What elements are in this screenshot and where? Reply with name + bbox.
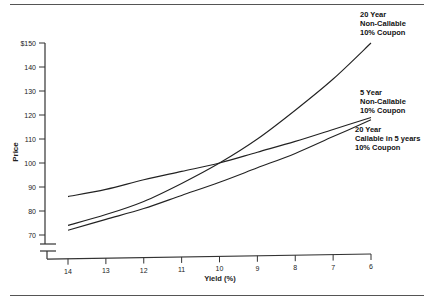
y-tick-label: 140 bbox=[24, 64, 36, 71]
x-tick-label: 14 bbox=[64, 268, 72, 275]
x-tick-label: 8 bbox=[293, 264, 297, 271]
x-tick-label: 9 bbox=[255, 265, 259, 272]
series-lines bbox=[68, 43, 371, 230]
series-label-20yr-callable: 20 Year Callable in 5 years 10% Coupon bbox=[355, 125, 420, 152]
y-tick-label: 130 bbox=[24, 88, 36, 95]
x-tick-label: 6 bbox=[369, 263, 373, 270]
series-label-20yr-noncallable: 20 Year Non-Callable 10% Coupon bbox=[360, 10, 406, 37]
x-axis-title: Yield (%) bbox=[204, 274, 236, 283]
y-tick-label: 70 bbox=[28, 232, 36, 239]
y-tick-label: 110 bbox=[25, 136, 36, 143]
x-tick-label: 12 bbox=[140, 267, 148, 274]
x-axis: 14131211109876 bbox=[47, 254, 373, 275]
x-tick-label: 13 bbox=[102, 267, 110, 274]
series-20yr-noncallable bbox=[68, 43, 371, 225]
y-axis-title: Price bbox=[11, 142, 20, 162]
y-tick-label: $150 bbox=[20, 40, 36, 47]
y-tick-label: 120 bbox=[24, 112, 36, 119]
y-tick-label: 100 bbox=[24, 160, 36, 167]
y-tick-label: 90 bbox=[28, 184, 36, 191]
series-5yr-noncallable bbox=[68, 117, 371, 196]
x-tick-label: 11 bbox=[178, 266, 185, 273]
x-tick-label: 7 bbox=[331, 264, 335, 271]
y-tick-label: 80 bbox=[28, 208, 36, 215]
y-axis: $150140130120110100908070 bbox=[20, 40, 56, 260]
series-20yr-callable bbox=[68, 120, 371, 230]
series-label-5yr-noncallable: 5 Year Non-Callable 10% Coupon bbox=[360, 88, 406, 115]
x-tick-label: 10 bbox=[216, 265, 224, 272]
